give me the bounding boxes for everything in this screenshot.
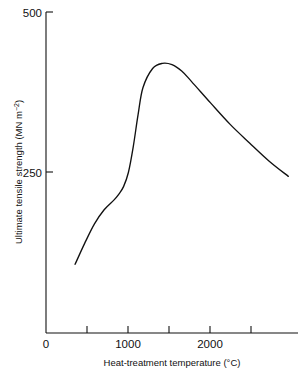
y-axis-title-tail: ) bbox=[13, 100, 24, 103]
y-tick-label-500: 500 bbox=[23, 7, 42, 19]
chart-figure: 500 250 0 1000 2000 Heat-treatment tempe… bbox=[0, 0, 301, 371]
y-axis-title: Ultimate tensile strength (MN m−2) bbox=[13, 100, 25, 244]
x-tick-label-2000: 2000 bbox=[197, 338, 223, 350]
x-tick-label-0: 0 bbox=[43, 338, 49, 350]
y-tick-label-250: 250 bbox=[23, 167, 42, 179]
x-tick-label-1000: 1000 bbox=[115, 338, 141, 350]
x-axis-title: Heat-treatment temperature (°C) bbox=[104, 357, 241, 368]
data-curve-ultimate-tensile-strength bbox=[75, 63, 288, 264]
y-axis-title-main: Ultimate tensile strength (MN m bbox=[13, 111, 24, 244]
chart-svg: 500 250 0 1000 2000 Heat-treatment tempe… bbox=[0, 0, 301, 371]
y-axis-title-superscript: −2 bbox=[13, 103, 20, 111]
